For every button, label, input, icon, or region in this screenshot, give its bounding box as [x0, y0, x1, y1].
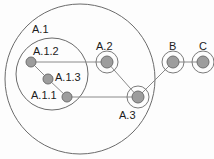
- label-group-a1: A.1: [32, 24, 49, 35]
- edge-a2-a3: [107, 62, 138, 97]
- label-node-a13: A.1.3: [55, 72, 81, 83]
- label-node-a2: A.2: [96, 41, 113, 52]
- node-a11[interactable]: [62, 92, 72, 102]
- node-a13[interactable]: [43, 74, 53, 84]
- edge-a3-b: [138, 62, 173, 97]
- node-a3[interactable]: [132, 91, 144, 103]
- label-node-a3: A.3: [119, 110, 136, 121]
- diagram-canvas: A.1 A.1.2 A.1.3 A.1.1 A.2 A.3 B C: [0, 0, 214, 159]
- label-node-a11: A.1.1: [31, 90, 57, 101]
- label-node-b: B: [169, 41, 176, 52]
- node-a12[interactable]: [26, 57, 36, 67]
- label-node-a12: A.1.2: [33, 46, 59, 57]
- node-a2[interactable]: [101, 56, 113, 68]
- node-b[interactable]: [167, 56, 179, 68]
- node-c[interactable]: [197, 56, 209, 68]
- label-node-c: C: [199, 41, 207, 52]
